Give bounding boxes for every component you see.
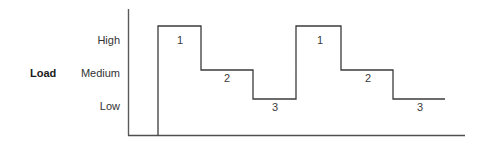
segment-label-1: 1	[177, 34, 183, 46]
chart-canvas: High Medium Low Load 1 2 3 1 2 3	[0, 0, 480, 151]
segment-label-3: 3	[272, 101, 278, 113]
y-tick-low: Low	[100, 100, 120, 112]
segment-label-4: 1	[317, 34, 323, 46]
segment-labels: 1 2 3 1 2 3	[177, 34, 423, 113]
segment-label-6: 3	[417, 101, 423, 113]
step-line-path	[158, 26, 445, 135]
segment-label-5: 2	[365, 72, 371, 84]
y-tick-medium: Medium	[81, 67, 120, 79]
segment-label-2: 2	[224, 72, 230, 84]
y-axis-tick-labels: High Medium Low	[81, 34, 120, 112]
load-step-series	[158, 26, 445, 135]
load-step-chart: High Medium Low Load 1 2 3 1 2 3	[0, 0, 480, 151]
y-tick-high: High	[97, 34, 120, 46]
y-axis-title-load: Load	[30, 67, 56, 79]
